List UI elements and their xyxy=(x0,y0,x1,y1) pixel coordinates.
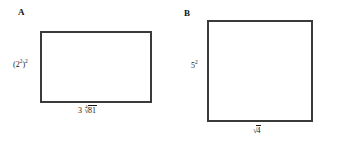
rectangle-a-height-base: (2 xyxy=(13,60,20,69)
square-b-height-exponent: 2 xyxy=(195,59,198,65)
rectangle-a-height-outer-exponent: 2 xyxy=(25,58,28,64)
rectangle-a xyxy=(40,31,152,103)
square-b-height-label: 52 xyxy=(191,62,198,71)
square-root-icon: √4 xyxy=(253,127,261,136)
square-b-width-label: √4 xyxy=(253,127,261,136)
figure-canvas: A (22)2 34√81 B 52 √4 xyxy=(0,0,349,154)
radicand-b: 4 xyxy=(256,125,261,135)
rectangle-a-width-label: 34√81 xyxy=(78,107,97,116)
fourth-root-icon: 4√81 xyxy=(82,107,97,116)
radicand-a: 81 xyxy=(88,105,97,115)
figure-label-b: B xyxy=(184,9,190,18)
square-b xyxy=(207,20,313,122)
rectangle-a-height-label: (22)2 xyxy=(13,61,28,70)
figure-label-a: A xyxy=(18,8,25,17)
